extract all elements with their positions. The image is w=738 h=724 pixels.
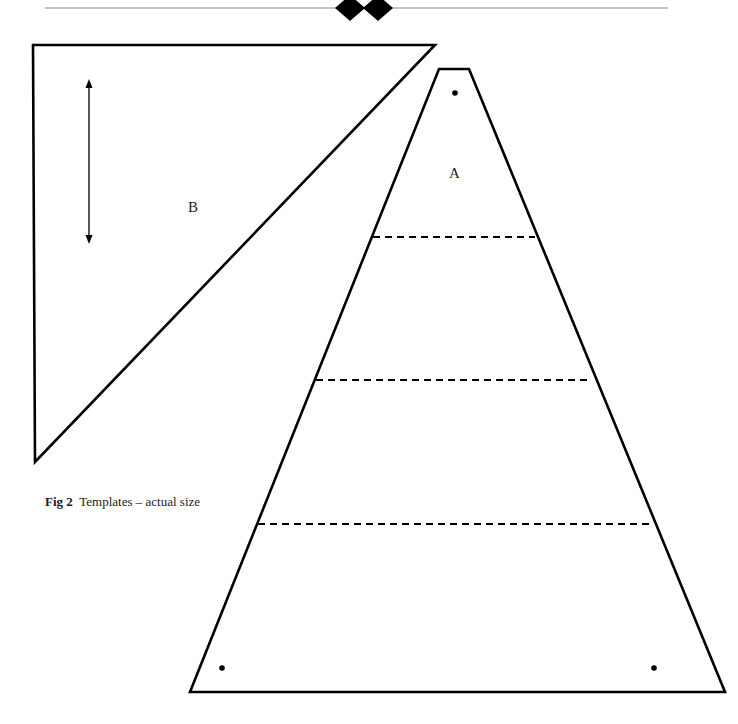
fold-lines — [258, 237, 650, 524]
hole-dot-icon — [651, 665, 657, 671]
hole-dot-icon — [452, 90, 458, 96]
template-a-label: A — [449, 165, 460, 182]
grain-arrow-icon — [86, 79, 93, 244]
figure-number: Fig 2 — [45, 494, 73, 509]
template-a — [190, 69, 725, 692]
figure-caption: Fig 2 Templates – actual size — [45, 494, 200, 510]
template-b-label: B — [188, 199, 198, 216]
template-b — [33, 45, 435, 462]
header-ornament — [45, 0, 668, 21]
hole-dot-icon — [219, 665, 225, 671]
templates-figure — [0, 0, 738, 724]
figure-caption-text: Templates – actual size — [79, 494, 200, 509]
